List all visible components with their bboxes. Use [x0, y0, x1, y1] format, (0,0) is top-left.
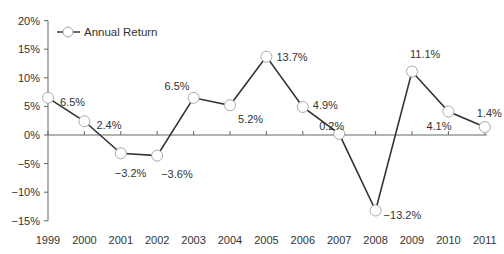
data-label: 13.7%: [276, 51, 307, 63]
legend: Annual Return: [57, 26, 158, 38]
y-axis: 20%15%10%5%0%−5%−10%−15%: [12, 15, 48, 227]
y-tick-label: 0%: [24, 129, 40, 141]
y-tick-label: 15%: [18, 43, 40, 55]
x-axis: 1999200020012002200320042005200620072008…: [36, 131, 497, 246]
x-tick-label: 2000: [72, 234, 96, 246]
data-point-marker: [370, 205, 381, 216]
data-label: 0.2%: [319, 120, 344, 132]
data-label: 6.5%: [60, 96, 85, 108]
x-tick-label: 2007: [327, 234, 351, 246]
x-tick-label: 2006: [291, 234, 315, 246]
data-label: −13.2%: [384, 209, 422, 221]
legend-label: Annual Return: [84, 26, 158, 38]
x-tick-label: 2003: [181, 234, 205, 246]
data-label: 4.9%: [313, 99, 338, 111]
data-label: 6.5%: [165, 80, 190, 92]
data-label: −3.2%: [115, 167, 147, 179]
y-tick-label: −15%: [12, 215, 41, 227]
data-label: 2.4%: [96, 119, 121, 131]
x-tick-label: 2001: [109, 234, 133, 246]
y-tick-label: −5%: [18, 158, 41, 170]
data-point-marker: [443, 106, 454, 117]
data-label: 1.4%: [477, 107, 502, 119]
x-tick-label: 2008: [363, 234, 387, 246]
data-label: −3.6%: [161, 168, 193, 180]
data-point-marker: [225, 100, 236, 111]
data-point-marker: [152, 150, 163, 161]
data-point-marker: [115, 148, 126, 159]
y-tick-label: 20%: [18, 15, 40, 27]
x-tick-label: 2005: [254, 234, 278, 246]
data-label: 11.1%: [410, 48, 441, 60]
line-chart: 20%15%10%5%0%−5%−10%−15% 199920002001200…: [0, 0, 504, 254]
data-point-marker: [188, 92, 199, 103]
data-label: 5.2%: [238, 113, 263, 125]
data-point-marker: [479, 121, 490, 132]
x-tick-label: 2010: [436, 234, 460, 246]
data-point-marker: [407, 66, 418, 77]
data-label: 4.1%: [426, 120, 451, 132]
x-tick-label: 1999: [36, 234, 60, 246]
y-tick-label: −10%: [12, 186, 41, 198]
data-point-marker: [43, 92, 54, 103]
data-point-marker: [297, 101, 308, 112]
y-tick-label: 10%: [18, 72, 40, 84]
x-tick-label: 2004: [218, 234, 242, 246]
x-tick-label: 2002: [145, 234, 169, 246]
data-point-marker: [261, 51, 272, 62]
legend-marker-icon: [63, 27, 73, 37]
series-annual-return: 6.5%2.4%−3.2%−3.6%6.5%5.2%13.7%4.9%0.2%−…: [43, 48, 503, 221]
x-tick-label: 2011: [473, 234, 497, 246]
data-point-marker: [79, 116, 90, 127]
x-tick-label: 2009: [400, 234, 424, 246]
y-tick-label: 5%: [24, 100, 40, 112]
